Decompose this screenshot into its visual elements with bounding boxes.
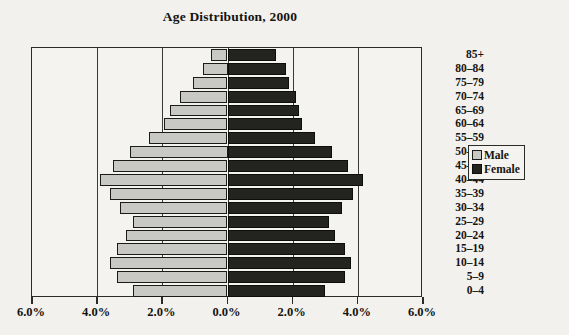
bar-female [228,285,326,297]
bar-male [110,188,227,200]
bar-male [211,49,227,61]
bar-female [228,132,316,144]
age-group-label: 5–9 [428,270,484,282]
bar-female [228,216,329,228]
x-axis-tick [422,297,424,304]
male-swatch-icon [472,150,482,160]
bar-row [32,215,421,229]
bar-male [170,105,227,117]
legend-label-male: Male [484,149,509,161]
bar-female [228,118,303,130]
age-group-label: 60–64 [428,117,484,129]
bar-male [113,160,227,172]
age-distribution-chart: Age Distribution, 2000 6.0%4.0%2.0%0.0%2… [0,0,569,335]
bar-row [32,104,421,118]
age-group-label: 85+ [428,48,484,60]
bar-female [228,63,287,75]
bar-male [149,132,227,144]
bar-row [32,173,421,187]
bar-row [32,90,421,104]
bar-male [203,63,227,75]
bar-female [228,257,352,269]
bar-row [32,229,421,243]
bar-male [110,257,227,269]
x-axis-tick-labels: 6.0%4.0%2.0%0.0%2.0%4.0%6.0% [0,305,569,325]
bar-row [32,48,421,62]
legend-item-male: Male [472,148,520,162]
bar-female [228,202,342,214]
bar-female [228,230,336,242]
bar-row [32,201,421,215]
x-axis-tick-label: 6.0% [17,305,45,320]
chart-title: Age Distribution, 2000 [0,9,460,25]
bar-female [228,160,349,172]
female-swatch-icon [472,164,482,174]
legend-item-female: Female [472,162,520,176]
chart-legend: Male Female [468,145,525,180]
bar-male [180,91,227,103]
age-group-label: 35–39 [428,187,484,199]
age-group-label: 15–19 [428,242,484,254]
bar-female [228,105,300,117]
x-axis-tick [292,297,294,304]
bar-row [32,256,421,270]
bar-male [120,202,228,214]
bar-row [32,284,421,298]
bar-female [228,243,345,255]
bar-row [32,242,421,256]
bar-row [32,131,421,145]
bar-male [100,174,227,186]
age-group-label: 75–79 [428,76,484,88]
bar-female [228,146,332,158]
bar-male [164,118,228,130]
bar-female [228,174,363,186]
bar-male [193,77,227,89]
x-axis-tick [357,297,359,304]
bars-layer [32,48,421,296]
x-axis-tick-label: 0.0% [212,305,240,320]
plot-area [31,47,422,297]
x-axis-tick-label: 6.0% [408,305,436,320]
bar-row [32,145,421,159]
bar-female [228,49,277,61]
x-axis-tick [31,297,33,304]
bar-row [32,117,421,131]
bar-male [130,146,228,158]
age-group-label: 10–14 [428,256,484,268]
age-group-label: 25–29 [428,215,484,227]
x-axis-tick [96,297,98,304]
age-group-label: 80–84 [428,62,484,74]
bar-male [133,216,227,228]
x-axis-tick [161,297,163,304]
x-axis-tick [227,297,229,304]
legend-label-female: Female [484,163,520,175]
bar-female [228,271,345,283]
age-group-label: 0–4 [428,284,484,296]
x-axis-tick-label: 4.0% [82,305,110,320]
age-group-label: 70–74 [428,90,484,102]
bar-male [126,230,227,242]
bar-female [228,91,296,103]
bar-row [32,62,421,76]
age-group-label: 65–69 [428,104,484,116]
age-group-label: 55–59 [428,131,484,143]
bar-row [32,159,421,173]
bar-male [133,285,227,297]
age-group-label: 30–34 [428,201,484,213]
bar-female [228,188,353,200]
bar-female [228,77,290,89]
bar-row [32,76,421,90]
bar-male [117,243,228,255]
x-axis-tick-label: 2.0% [147,305,175,320]
bar-row [32,187,421,201]
x-axis-tick-label: 2.0% [278,305,306,320]
x-axis-tick-label: 4.0% [343,305,371,320]
bar-male [117,271,228,283]
age-group-label: 20–24 [428,229,484,241]
bar-row [32,270,421,284]
x-axis-ticks [31,297,422,304]
